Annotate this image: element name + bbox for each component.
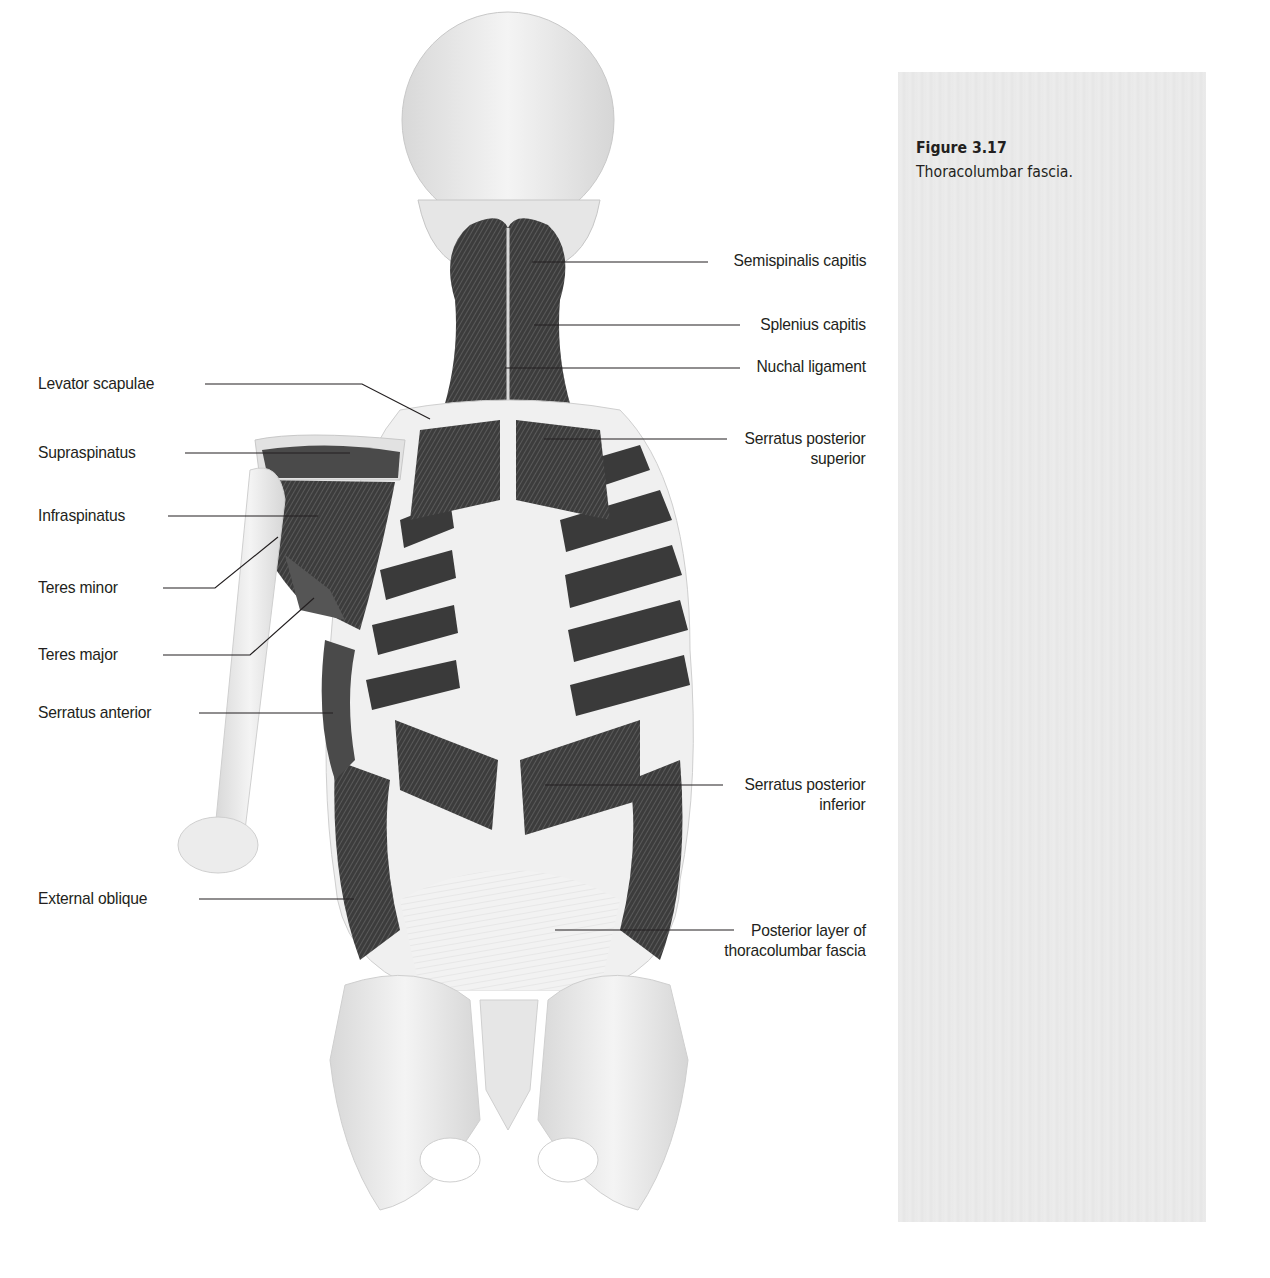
label-posterior-layer-thoracolumbar-fascia: Posterior layer of thoracolumbar fascia — [724, 921, 866, 961]
label-serratus-posterior-superior: Serratus posterior superior — [745, 429, 866, 469]
label-line-1: Serratus posterior — [745, 429, 866, 449]
caption-panel: Figure 3.17 Thoracolumbar fascia. — [898, 72, 1206, 1222]
label-line-2: thoracolumbar fascia — [724, 941, 866, 961]
label-nuchal-ligament: Nuchal ligament — [757, 357, 866, 377]
label-semispinalis-capitis: Semispinalis capitis — [733, 251, 866, 271]
figure-caption: Thoracolumbar fascia. — [916, 162, 1073, 181]
torso-illustration — [0, 0, 890, 1278]
label-infraspinatus: Infraspinatus — [38, 506, 125, 526]
label-line-2: superior — [745, 449, 866, 469]
label-teres-minor: Teres minor — [38, 578, 118, 598]
pelvis — [330, 975, 688, 1210]
label-external-oblique: External oblique — [38, 889, 147, 909]
label-line-1: Serratus posterior — [745, 775, 866, 795]
label-teres-major: Teres major — [38, 645, 118, 665]
anatomical-figure: Semispinalis capitis Splenius capitis Nu… — [0, 0, 890, 1278]
label-line-1: Posterior layer of — [724, 921, 866, 941]
label-supraspinatus: Supraspinatus — [38, 443, 136, 463]
label-levator-scapulae: Levator scapulae — [38, 374, 154, 394]
label-line-2: inferior — [745, 795, 866, 815]
figure-number: Figure 3.17 — [916, 138, 1007, 157]
label-splenius-capitis: Splenius capitis — [760, 315, 866, 335]
label-serratus-anterior: Serratus anterior — [38, 703, 151, 723]
label-serratus-posterior-inferior: Serratus posterior inferior — [745, 775, 866, 815]
humerus — [178, 468, 285, 873]
